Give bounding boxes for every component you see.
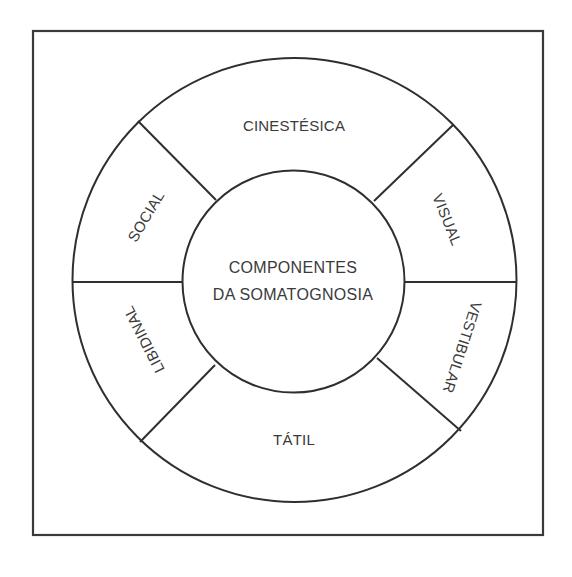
segment-label-cinestesica: CINESTÉSICA <box>243 117 345 134</box>
center-label-line1: COMPONENTES <box>229 259 358 276</box>
center-label-line2: DA SOMATOGNOSIA <box>213 286 373 303</box>
segment-label-tatil: TÁTIL <box>273 431 315 448</box>
inner-circle <box>183 171 405 393</box>
somatognosia-diagram: COMPONENTES DA SOMATOGNOSIA CINESTÉSICA … <box>0 0 572 577</box>
